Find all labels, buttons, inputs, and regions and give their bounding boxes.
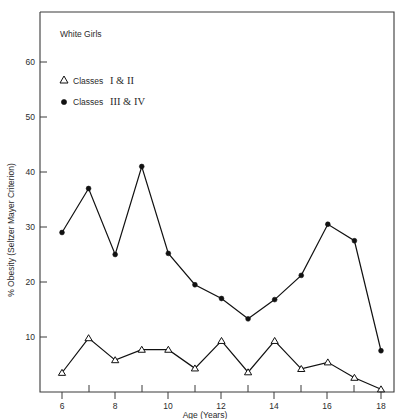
y-tick-label-10: 10 bbox=[26, 332, 36, 342]
legend: Classes I & II Classes III & IV bbox=[60, 75, 145, 107]
x-tick-label-14: 14 bbox=[269, 401, 279, 411]
legend-label-classes-3-4: Classes bbox=[73, 97, 103, 107]
series-line-2 bbox=[62, 167, 381, 351]
data-point-filled-circle bbox=[60, 230, 65, 235]
y-tick-label-30: 30 bbox=[26, 222, 36, 232]
data-point-filled-circle bbox=[166, 251, 171, 256]
x-tick-label-8: 8 bbox=[113, 401, 118, 411]
y-tick-label-20: 20 bbox=[26, 277, 36, 287]
panel-title: White Girls bbox=[60, 29, 102, 39]
obesity-by-age-line-chart: 60 50 40 30 20 10 6 8 10 12 bbox=[0, 0, 410, 419]
data-point-open-triangle bbox=[271, 337, 278, 343]
data-point-filled-circle bbox=[86, 186, 91, 191]
y-axis-ticks bbox=[40, 62, 47, 337]
chart-container: 60 50 40 30 20 10 6 8 10 12 bbox=[0, 0, 410, 419]
legend-label-classes-1-2: Classes bbox=[73, 76, 103, 86]
data-point-open-triangle bbox=[377, 386, 384, 392]
data-point-filled-circle bbox=[113, 252, 118, 257]
legend-roman-classes-1-2: I & II bbox=[110, 75, 134, 86]
data-point-filled-circle bbox=[272, 297, 277, 302]
data-point-open-triangle bbox=[218, 337, 225, 343]
x-tick-label-10: 10 bbox=[163, 401, 173, 411]
data-point-filled-circle bbox=[246, 316, 251, 321]
series-line-1 bbox=[62, 338, 381, 389]
open-triangle-icon bbox=[60, 76, 68, 83]
data-point-open-triangle bbox=[351, 374, 358, 380]
legend-roman-classes-3-4: III & IV bbox=[110, 96, 145, 107]
x-tick-label-18: 18 bbox=[376, 401, 386, 411]
data-point-filled-circle bbox=[299, 273, 304, 278]
x-tick-label-16: 16 bbox=[322, 401, 332, 411]
plot-frame bbox=[40, 12, 394, 392]
y-axis-title: % Obesity (Seltzer Mayer Criterion) bbox=[6, 163, 16, 297]
y-tick-label-60: 60 bbox=[26, 57, 36, 67]
data-point-open-triangle bbox=[85, 335, 92, 341]
x-axis-title: Age (Years) bbox=[183, 410, 228, 419]
data-point-filled-circle bbox=[193, 282, 198, 287]
data-point-filled-circle bbox=[219, 296, 224, 301]
y-axis-tick-labels: 60 50 40 30 20 10 bbox=[26, 57, 36, 342]
data-point-filled-circle bbox=[352, 238, 357, 243]
series-layer bbox=[58, 164, 384, 392]
x-tick-label-6: 6 bbox=[60, 401, 65, 411]
y-tick-label-50: 50 bbox=[26, 112, 36, 122]
y-tick-label-40: 40 bbox=[26, 167, 36, 177]
data-point-filled-circle bbox=[379, 348, 384, 353]
data-point-filled-circle bbox=[139, 164, 144, 169]
data-point-filled-circle bbox=[325, 222, 330, 227]
filled-circle-icon bbox=[61, 99, 66, 104]
data-point-open-triangle bbox=[324, 359, 331, 365]
